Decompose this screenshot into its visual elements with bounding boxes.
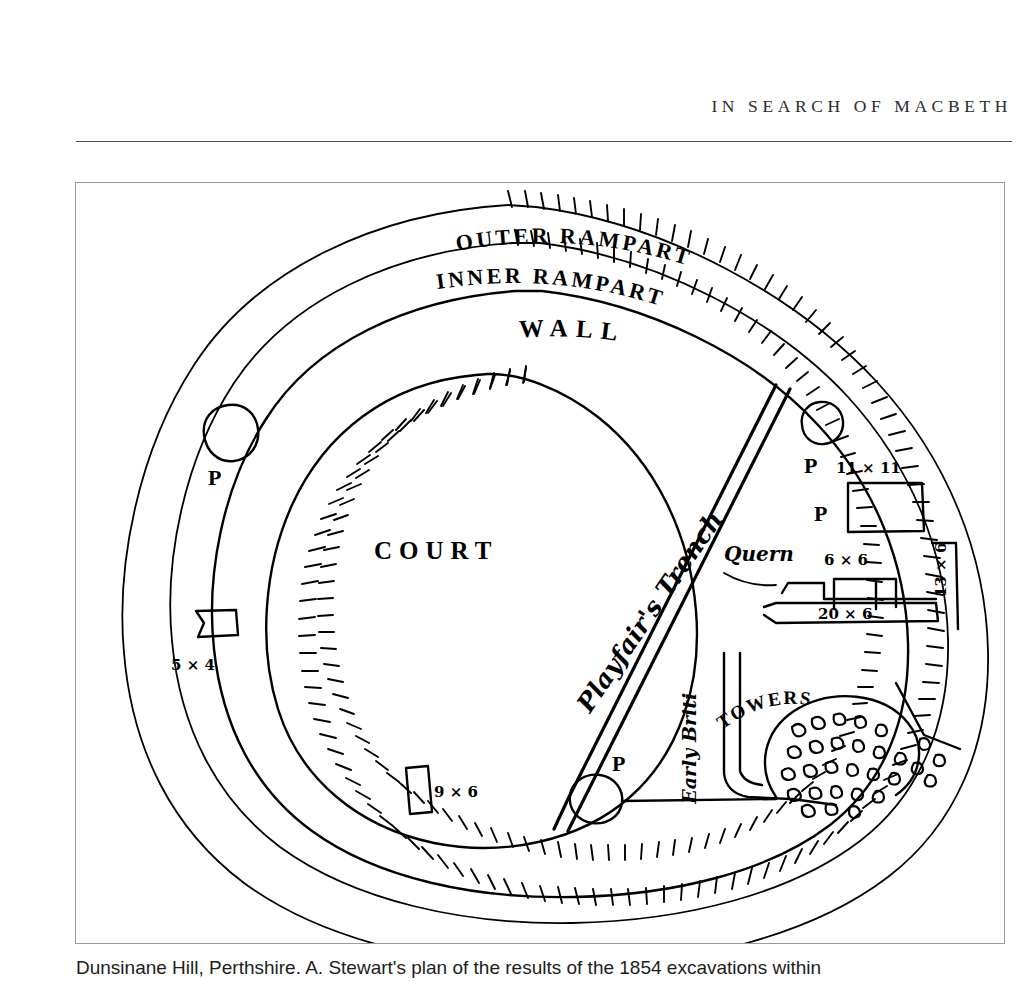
rampart-wall-labels: OUTER RAMPART INNER RAMPART WALL (434, 223, 695, 347)
header-rule (76, 141, 1012, 142)
pit-west-label: P (208, 465, 221, 490)
dunsinane-plan-drawing: COURT Playfair's Trench OUTER RAMPART IN… (76, 183, 1005, 944)
playfairs-trench-group: Playfair's Trench (554, 385, 790, 831)
dimension-chamber-south: 9 × 6 (434, 783, 478, 801)
pit-northeast-label: P (804, 453, 817, 478)
pit-chamber-east-label: P (814, 501, 827, 526)
dimension-chamber-ne-large: 11 × 11 (836, 459, 901, 477)
dimension-chamber-west: 5 × 4 (171, 656, 215, 674)
dimension-chamber-ne-small: 6 × 6 (824, 551, 868, 569)
inner-rampart-label: INNER RAMPART (434, 263, 668, 311)
running-head: IN SEARCH OF MACBETH (0, 96, 1012, 117)
west-features: P 5 × 4 (171, 405, 258, 674)
towers-label: TOWERS (713, 687, 814, 733)
court-group: COURT (266, 374, 697, 848)
figure-frame: COURT Playfair's Trench OUTER RAMPART IN… (75, 182, 1005, 944)
dimension-chamber-gallery: 20 × 6 (818, 605, 872, 623)
early-british-group: Early British (76, 183, 790, 805)
court-label: COURT (374, 537, 498, 564)
dimension-chamber-east-side: 13 × 6 (932, 543, 950, 597)
pit-south-label: P (612, 751, 625, 776)
outer-rampart-label: OUTER RAMPART (454, 223, 696, 271)
figure-caption: Dunsinane Hill, Perthshire. A. Stewart's… (76, 955, 1012, 981)
lower-wall-returns (622, 799, 836, 805)
wall-label: WALL (518, 314, 627, 346)
south-chamber: 9 × 6 (406, 766, 478, 814)
playfairs-trench-label: Playfair's Trench (571, 506, 729, 718)
northeast-chambers: P 11 × 11 P 6 × 6 20 × 6 13 × 6 Quern (724, 402, 958, 629)
quern-label: Quern (724, 542, 794, 566)
